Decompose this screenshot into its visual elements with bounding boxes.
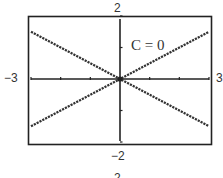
intersection-point [117,76,122,81]
parameter-annotation: C = 0 [131,37,164,53]
chart-plot: C = 0 [0,0,223,178]
